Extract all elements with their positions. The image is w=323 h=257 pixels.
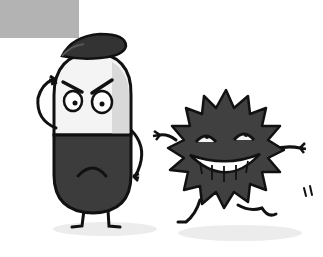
virus-character xyxy=(153,90,312,222)
illustration xyxy=(0,0,323,257)
virus-shadow xyxy=(178,225,302,241)
pill-shadow xyxy=(53,222,157,236)
pill-character xyxy=(38,34,142,227)
